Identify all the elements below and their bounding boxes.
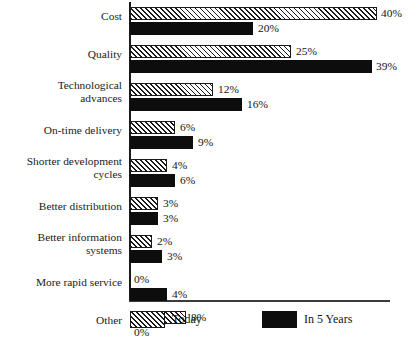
bar-in-5-years <box>130 60 372 73</box>
value-label: 20% <box>258 22 279 35</box>
category-label: More rapid service <box>0 276 122 289</box>
category-label: Shorter development cycles <box>0 155 122 180</box>
bar-chart: CostQualityTechnological advancesOn-time… <box>0 0 413 337</box>
legend-swatch-in-5-years <box>262 311 297 328</box>
value-label: 4% <box>172 288 187 301</box>
value-label: 40% <box>381 7 402 20</box>
bar-in-5-years <box>130 98 242 111</box>
value-label: 2% <box>157 235 172 248</box>
category-label: Cost <box>0 10 122 23</box>
category-label: Technological advances <box>0 79 122 104</box>
category-label: On-time delivery <box>0 124 122 137</box>
bar-in-5-years <box>130 288 167 301</box>
value-label: 4% <box>172 159 187 172</box>
category-label: Other <box>0 314 122 327</box>
bar-in-5-years <box>130 174 175 187</box>
value-label: 6% <box>180 121 195 134</box>
category-label: Better information systems <box>0 231 122 256</box>
bar-today <box>130 45 291 58</box>
value-label: 3% <box>167 250 182 263</box>
bar-in-5-years <box>130 250 162 263</box>
category-label: Better distribution <box>0 200 122 213</box>
bar-in-5-years <box>130 212 158 225</box>
bar-today <box>130 7 377 20</box>
horizontal-axis-line <box>129 300 390 302</box>
bar-today <box>130 121 175 134</box>
value-label: 3% <box>163 197 178 210</box>
value-label: 12% <box>218 83 239 96</box>
value-label: 25% <box>296 45 317 58</box>
category-label: Quality <box>0 48 122 61</box>
bar-today <box>130 235 152 248</box>
value-label: 9% <box>198 136 213 149</box>
bar-today <box>130 159 167 172</box>
bar-in-5-years <box>130 136 193 149</box>
value-label: 16% <box>247 98 268 111</box>
legend-swatch-today <box>130 311 165 328</box>
value-label: 0% <box>134 273 149 286</box>
bar-in-5-years <box>130 22 253 35</box>
value-label: 6% <box>180 174 195 187</box>
value-label: 39% <box>376 60 397 73</box>
bar-today <box>130 83 213 96</box>
legend-label-today: Today <box>172 311 202 328</box>
value-label: 3% <box>163 212 178 225</box>
legend-label-in-5-years: In 5 Years <box>304 311 352 328</box>
bar-today <box>130 197 158 210</box>
chart-title-cropped <box>0 0 300 5</box>
